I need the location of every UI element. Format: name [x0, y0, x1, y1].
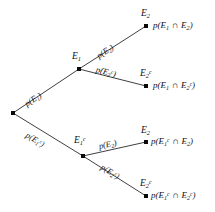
- outcome-label-E1c-E2c: p(E1c ∩ E2c): [151, 191, 195, 201]
- outcome-label-E1-E2: p(E1 ∩ E2): [153, 21, 193, 31]
- edge-root-to-E1: [13, 69, 79, 113]
- outcome-label-E1-E2c: p(E1 ∩ E2c): [153, 81, 195, 91]
- node-label-leaf-E1c-E2c: E2c: [140, 179, 152, 189]
- node-E1c-E2c: [144, 194, 148, 198]
- outcome-label-E1c-E2: p(E1c ∩ E2): [151, 137, 193, 147]
- probability-tree-diagram: E1 E1c E2 E2c E2 E2c p(E1) p(E1c) p(E2) …: [0, 0, 215, 212]
- node-label-leaf-E1c-E2: E2: [141, 126, 150, 136]
- edge-root-to-E1c: [13, 113, 83, 156]
- root-node: [11, 111, 15, 115]
- node-E1c-E2: [144, 140, 148, 144]
- node-label-leaf-E1-E2c: E2c: [140, 69, 152, 79]
- node-label-E1c: E1c: [74, 136, 86, 146]
- node-label-leaf-E1-E2: E2: [141, 9, 150, 19]
- node-E1: [77, 67, 81, 71]
- node-E1-E2c: [144, 84, 148, 88]
- node-label-E1: E1: [72, 52, 81, 62]
- node-E1c: [81, 154, 85, 158]
- node-E1-E2: [144, 24, 148, 28]
